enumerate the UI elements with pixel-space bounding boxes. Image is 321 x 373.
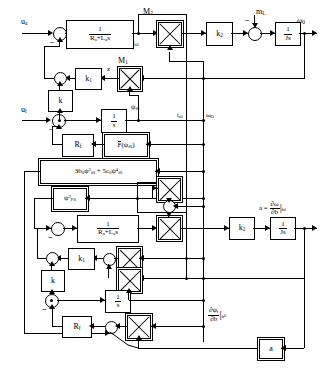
wire-uf-in [22,120,47,121]
arrow-mult-lower1-in [152,225,157,231]
wire-omega0-feedback-down [304,33,305,78]
arrow-sum-k1lower-bottom [106,264,112,269]
node-psif0-to-poly [202,170,205,173]
block-armature-transfer-upper: 1 Ra+Las [66,20,134,49]
wire-psif0-to-psicubed [85,198,203,199]
node-ia0-to-multk1b [185,277,188,280]
label-ia0-mid: ia0 [177,112,183,119]
sign-minus-sum-armature-lower: − [48,233,53,242]
wire-sum-backemf-lower-up [37,228,38,258]
wire-sum3-up [44,46,45,78]
arrow-sum1-bottom [57,37,63,42]
arrow-Rf-in [91,141,96,147]
summing-junction-armature-lower [51,222,65,236]
wire-psicubed-out [34,198,53,199]
wire-mult-k1a-right [139,258,203,259]
wire-poly-left-rail-down [24,171,25,333]
wire-poly-out-left [24,171,40,172]
arrow-k-in [57,108,63,113]
wire-sens-psif-up [203,242,204,300]
block-k1-lower: k1 [68,248,95,270]
label-sensitivity-psif: ∂ψf ∂b |b0 [208,307,226,323]
arrow-sum-field-lower-bottom [49,304,55,309]
label-m1: M1 [118,57,128,66]
wire-sens-omega-left [139,278,304,279]
block-integrator-upper: 1 s [101,109,127,133]
block-k2-upper: k2 [206,22,233,46]
node-omegaO-to-sum-lower [202,205,205,208]
block-k1-upper: k1 [75,68,102,90]
label-ia0-upper: ia0 [133,40,139,47]
wire-m2-bottom-stub [169,52,170,61]
wire-mult-lower-field-in [151,326,203,327]
label-input-ua: ua [21,18,27,27]
node-field-lower [50,299,53,302]
arrow-mult-k1a-in [139,255,144,261]
multiplier-lower-k1-a [118,248,141,271]
arrow-omega0-out [312,30,317,36]
block-diagram: ua − 1 Ra+Las ia0 M2 k2 − mL [0,0,321,373]
arrow-klower-in [49,289,55,294]
arrow-sensitivity-omega-out [312,225,317,231]
wire-sens-omega-down [304,228,305,278]
wire-omegaO-to-sum-lower [174,206,203,207]
block-a-gain: a [259,339,283,359]
wire-psif0-to-m1-stub [129,95,139,96]
wire-psicubed-rail-to-mult-upper [152,188,153,198]
block-polynomial-derivative: 3b0ψ2f0 + 5c0ψ4f0 [40,160,157,184]
wire-field-lower-to-int [57,300,105,301]
wire-psif0-to-F [146,144,203,145]
arrow-m1-bottom [127,86,133,91]
arrow-uf-in [46,117,51,123]
arrow-mult-lower-field-in [151,323,156,329]
wire-psif0-to-poly [155,171,203,172]
wire-Rf-out [52,144,62,145]
block-armature-transfer-lower: 1 Ra+Las [77,215,139,243]
wire-sum-backemf-lower-left [37,258,46,259]
block-Rf-upper: Rf [62,134,94,157]
block-inertia-lower: 1 Js [270,217,296,240]
summing-junction-torque [248,27,262,41]
diagonal-wire-rail-join [128,345,138,348]
wire-ia0-long-down [186,14,187,212]
wire-ua-in [22,33,48,34]
wire-ia0-up [138,14,139,33]
sign-minus-sum-torque: − [245,16,250,25]
block-Rf-lower: Rf [62,316,92,338]
node-mult-lower-field-src [202,325,205,328]
wire-to-sum1-bottom [44,46,59,47]
wire-int-lower-out [129,300,204,301]
arrow-Rf-lower-in [89,323,94,329]
wire-psif0-up-m1 [138,95,139,120]
node-psif0-to-F [202,143,205,146]
wire-omegaO-long-down [203,78,204,242]
wire-psicubed-down [34,198,35,228]
wire-poly-branch-down [137,182,138,198]
wire-psicubed-branch-to-mult [137,198,138,212]
label-sensitivity-omega: a = ∂ω ∂b |b0 [259,201,286,216]
wire-a-to-mult-lower-field [138,348,259,349]
block-psi-cubed: ψ3F0 [53,188,87,210]
label-m2: M2 [143,8,153,17]
wire-omega0-feedback-left [139,78,305,79]
arrow-mult-lower-field-bottom [136,335,142,340]
label-z: z [107,66,110,73]
block-F-psif0: F(ψf0) [104,134,148,157]
sign-minus-sum-field-lower: − [42,305,47,314]
arrow-poly-in [155,168,160,174]
arrow-psicubed-in [85,195,90,201]
arrow-a-in [281,345,286,351]
node-ia0-to-multk1a [185,257,188,260]
wire-Rf-lower-out [52,326,62,327]
arrow-multk1b-bottom [126,288,132,293]
multiplier-m2 [158,22,182,46]
arrow-sum-lower-field-right [115,323,120,329]
arrow-sum-torque-lower-top [166,198,172,203]
block-k2-lower: k2 [229,217,255,240]
label-omegaO-mid: ωO [206,112,214,120]
wire-Rf-lower-up [52,306,53,326]
label-input-mL: mL [256,8,266,17]
wire-sum3-left [44,78,54,79]
multiplier-lower-torque [158,217,181,240]
wire-sens-psif-down [203,300,204,342]
